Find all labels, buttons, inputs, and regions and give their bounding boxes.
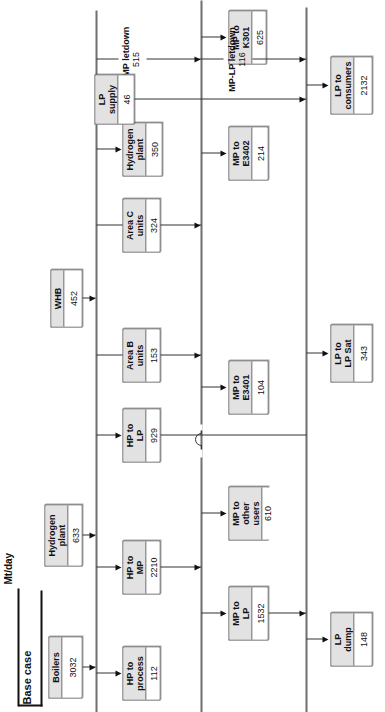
flow-diagram-plane: Base case Mt/day Boilers 3032 Hydrogen — [0, 0, 385, 712]
mp-lp-letdown-arrow — [299, 57, 305, 63]
node-area-b-units-value: 153 — [146, 329, 159, 381]
hp-to-lp-in-connector — [96, 434, 116, 435]
hydrogen-plant-user-connector — [96, 148, 116, 149]
node-lp-dump[interactable]: LP dump 148 — [330, 612, 372, 666]
node-hydrogen-plant-source-value: 633 — [68, 505, 81, 565]
node-mp-to-e3401-value: 104 — [252, 361, 267, 413]
line-jump-icon — [190, 428, 204, 450]
hp-mp-letdown-arrow — [194, 57, 200, 63]
node-area-c-units-value: 324 — [146, 199, 159, 251]
label-mp-lp-letdown-value: 116 — [236, 14, 247, 104]
mp-to-e3401-arrow — [220, 385, 226, 391]
hp-to-mp-in-connector — [96, 566, 116, 567]
node-hydrogen-plant-source-label: Hydrogen plant — [45, 505, 68, 565]
diagram-canvas: Base case Mt/day Boilers 3032 Hydrogen — [0, 0, 385, 712]
node-hp-to-mp[interactable]: HP to MP 2210 — [122, 540, 160, 594]
mp-lp-letdown-in-connector — [201, 58, 223, 59]
node-mp-to-lp-value: 1532 — [252, 587, 267, 639]
node-mp-to-other-users[interactable]: MP to other users 610 — [228, 486, 268, 540]
node-hp-to-lp[interactable]: HP to LP 929 — [122, 408, 160, 462]
node-lp-to-lp-sat-value: 343 — [354, 325, 371, 381]
mp-to-e3401-connector — [201, 386, 222, 387]
node-area-c-units[interactable]: Area C units 324 — [122, 198, 160, 252]
mp-to-k301-connector — [201, 36, 222, 37]
lp-header-bus — [305, 7, 307, 712]
node-mp-to-e3402-value: 214 — [252, 127, 267, 179]
title-left-tick — [18, 704, 42, 706]
mp-to-e3402-arrow — [220, 151, 226, 157]
area-c-in-connector — [96, 224, 122, 225]
mp-to-e3402-connector — [201, 152, 222, 153]
node-mp-to-e3402-label: MP to E3402 — [229, 127, 252, 179]
node-whb[interactable]: WHB 452 — [50, 269, 82, 327]
lp-to-lp-sat-arrow — [322, 351, 328, 357]
node-lp-supply-value: 46 — [118, 75, 133, 123]
whb-arrow — [89, 296, 95, 302]
node-lp-to-consumers-label: LP to consumers — [331, 57, 354, 113]
node-lp-to-lp-sat[interactable]: LP to LP Sat 343 — [330, 324, 372, 382]
node-boilers[interactable]: Boilers 3032 — [48, 636, 82, 698]
mp-to-k301-arrow — [220, 35, 226, 41]
node-boilers-value: 3032 — [62, 637, 81, 697]
node-hp-to-lp-value: 929 — [146, 409, 159, 461]
node-hydrogen-plant-user-label: Hydrogen plant — [123, 123, 146, 175]
mp-to-lp-in-connector — [201, 612, 222, 613]
hp-to-lp-out-connector — [160, 434, 306, 435]
node-hydrogen-plant-user[interactable]: Hydrogen plant 350 — [122, 122, 162, 176]
node-lp-to-consumers[interactable]: LP to consumers 2132 — [330, 56, 372, 114]
node-hp-to-process-value: 112 — [146, 647, 159, 699]
lp-dump-connector — [306, 638, 324, 639]
node-mp-to-e3402[interactable]: MP to E3402 214 — [228, 126, 268, 180]
node-lp-supply[interactable]: LP supply 46 — [94, 74, 134, 124]
node-lp-to-consumers-value: 2132 — [354, 57, 371, 113]
hp-to-lp-in-arrow — [115, 433, 121, 439]
node-area-b-units[interactable]: Area B units 153 — [122, 328, 160, 382]
mp-to-lp-in-arrow — [220, 611, 226, 617]
node-lp-dump-label: LP dump — [331, 613, 354, 665]
title-top-rule — [17, 588, 19, 706]
node-hydrogen-plant-source[interactable]: Hydrogen plant 633 — [44, 504, 82, 566]
lp-supply-arrow — [299, 97, 305, 103]
node-hydrogen-plant-user-value: 350 — [146, 123, 161, 175]
case-title: Base case — [20, 650, 32, 704]
node-whb-label: WHB — [51, 270, 64, 326]
label-mp-lp-letdown-text: MP-LP letdown — [226, 14, 236, 104]
node-hp-to-lp-label: HP to LP — [123, 409, 146, 461]
boilers-arrow — [89, 665, 95, 671]
lp-to-lp-sat-connector — [306, 352, 324, 353]
node-lp-supply-label: LP supply — [95, 75, 118, 123]
lp-to-consumers-arrow — [322, 83, 328, 89]
hp-to-process-connector — [96, 672, 116, 673]
mp-to-other-users-arrow — [220, 511, 226, 517]
hp-to-mp-out-arrow — [194, 565, 200, 571]
hp-to-mp-in-arrow — [115, 565, 121, 571]
hp-mp-letdown-out-connector — [146, 58, 201, 59]
mp-lp-letdown-out-connector — [252, 58, 306, 59]
node-mp-to-e3401-label: MP to E3401 — [229, 361, 252, 413]
lp-dump-arrow — [322, 637, 328, 643]
node-area-c-units-label: Area C units — [123, 199, 146, 251]
mp-to-lp-out-arrow — [299, 611, 305, 617]
mp-to-other-users-connector — [201, 512, 222, 513]
node-area-b-units-label: Area B units — [123, 329, 146, 381]
node-lp-to-lp-sat-label: LP to LP Sat — [331, 325, 354, 381]
label-mp-lp-letdown: MP-LP letdown 116 — [226, 14, 247, 104]
node-mp-to-other-users-value: 610 — [262, 487, 272, 539]
node-hp-to-process[interactable]: HP to process 112 — [122, 646, 160, 700]
node-hp-to-process-label: HP to process — [123, 647, 146, 699]
area-b-in-connector — [96, 354, 122, 355]
node-mp-to-lp[interactable]: MP to LP 1532 — [228, 586, 268, 640]
hp-mp-letdown-in-connector — [96, 58, 118, 59]
hydrogen-plant-user-arrow — [115, 147, 121, 153]
units-label: Mt/day — [2, 552, 13, 584]
hop-bus-mask — [199, 449, 202, 457]
node-mp-to-e3401[interactable]: MP to E3401 104 — [228, 360, 268, 414]
node-hp-to-mp-label: HP to MP — [123, 541, 146, 593]
node-lp-dump-value: 148 — [354, 613, 371, 665]
title-underline — [40, 590, 42, 706]
node-hp-to-mp-value: 2210 — [146, 541, 159, 593]
node-boilers-label: Boilers — [49, 637, 62, 697]
node-mp-to-k301-value: 625 — [252, 11, 265, 63]
node-mp-to-other-users-label: MP to other users — [229, 487, 262, 539]
lp-supply-connector — [134, 98, 306, 99]
